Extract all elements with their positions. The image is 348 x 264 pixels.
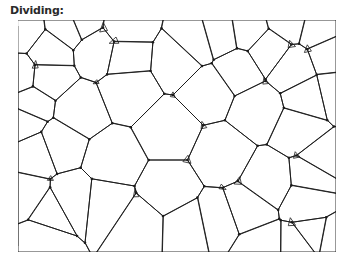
cell-junction [186,159,189,162]
cell-wall [317,73,336,127]
cell-wall [27,29,75,65]
cell-junction [306,48,309,51]
cell-junction [79,166,82,169]
cell-junction [133,185,136,188]
cell-junction [84,242,87,245]
cell-wall [188,120,258,187]
cell-junction [95,81,98,84]
cell-junction [298,43,301,46]
cell-junction [291,221,294,224]
cell-junction [283,106,286,109]
cell-junction [130,126,133,129]
cell-wall [173,63,235,125]
cell-wall [41,118,89,174]
cell-junction [172,94,175,97]
cell-junction [295,154,298,157]
cell-wall [18,20,45,54]
cell-junction [238,233,241,236]
cell-wall [103,20,163,42]
cell-junction [40,131,43,134]
cell-wall [225,81,284,146]
cell-wall [233,20,269,51]
cell-junction [72,49,75,52]
cell-junction [333,125,336,128]
cell-junction [25,52,28,55]
small-cells [32,22,311,225]
cell-wall [74,20,105,40]
cell-wall [151,28,202,95]
cell-walls [18,20,336,252]
cell-wall [162,20,214,66]
cell-wall [307,37,336,75]
cell-junction [152,41,155,44]
cell-junction [237,180,240,183]
cell-wall [203,20,238,60]
cell-junction [264,78,267,81]
cell-junction [49,178,52,181]
cell-junction [325,216,328,219]
cell-junction [326,119,329,122]
cell-junction [46,120,49,123]
cell-junction [267,27,270,30]
cell-junction [212,58,215,61]
cell-wall [267,108,334,158]
cell-junction [113,40,116,43]
cell-junction [203,185,206,188]
cell-wall [18,172,50,224]
cell-junction [265,143,268,146]
cell-junction [277,209,280,212]
cell-junction [201,65,204,68]
cell-wall [44,20,82,50]
cell-wall [292,217,326,252]
cell-wall [223,181,280,234]
cell-wall [33,65,81,101]
cell-wall [50,168,92,243]
cell-wall [267,20,306,45]
cell-wall [96,71,164,127]
cell-junction [162,215,165,218]
cell-junction [246,50,249,53]
cell-junction [91,178,94,181]
cell-junction [160,27,163,30]
cell-junction [49,186,52,189]
cell-junction [111,122,114,125]
cell-junction [278,217,281,220]
cell-junction [202,124,205,127]
cell-wall [135,160,205,216]
cell-wall [296,127,336,179]
cell-wall [53,78,112,140]
cell-wall [28,187,77,236]
cell-junction [163,93,166,96]
cell-junction [106,73,109,76]
cell-junction [210,62,213,65]
cell-junction [34,64,37,67]
cell-junction [81,39,84,42]
cell-junction [256,145,259,148]
cell-junction [52,117,55,120]
cell-junctions [25,26,335,244]
foam-cell-network-illustration [18,20,336,252]
cell-junction [27,219,30,222]
cell-junction [288,157,291,160]
cell-junction [73,65,76,68]
figure-title: Dividing: [10,4,64,17]
cell-junction [44,28,47,31]
cell-wall [197,186,239,252]
cell-junction [54,99,57,102]
cell-junction [80,76,83,79]
cell-junction [290,43,293,46]
cell-junction [315,73,318,76]
cell-junction [196,196,199,199]
cell-junction [224,119,227,122]
cell-wall [81,123,149,186]
cell-wall [107,42,153,75]
cell-wall [85,179,136,252]
cell-wall [212,48,266,96]
cell-junction [233,95,236,98]
cell-wall [281,220,315,252]
cell-junction [236,47,239,50]
cell-junction [147,159,150,162]
cell-junction [76,235,79,238]
cell-wall [162,198,209,252]
cell-junction [221,186,224,189]
